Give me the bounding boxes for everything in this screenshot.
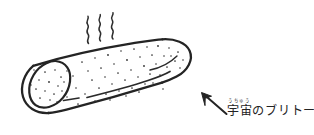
caption-text: 宇宙のブリトー [227,105,308,118]
caption-block: うちゅう 宇宙のブリトー [227,99,311,118]
sketch-page: うちゅう 宇宙のブリトー [0,0,314,135]
